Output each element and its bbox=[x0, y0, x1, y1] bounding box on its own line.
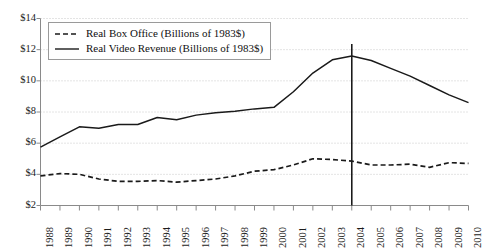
x-axis-tick-label: 2008 bbox=[434, 227, 445, 248]
x-axis-tick-label: 2007 bbox=[415, 227, 426, 248]
x-axis-tick-label: 2004 bbox=[356, 227, 367, 248]
x-axis-tick-label: 1994 bbox=[162, 227, 173, 248]
x-axis-tick-label: 2002 bbox=[317, 227, 328, 248]
x-axis-tick-label: 1991 bbox=[103, 227, 114, 248]
x-axis-tick-label: 2005 bbox=[376, 227, 387, 248]
x-axis-tick-label: 2010 bbox=[473, 227, 484, 248]
legend: Real Box Office (Billions of 1983$) Real… bbox=[48, 22, 271, 60]
legend-label-video-revenue: Real Video Revenue (Billions of 1983$) bbox=[86, 42, 263, 55]
dashed-line-icon bbox=[54, 28, 80, 40]
chart-container: $2$4$6$8$10$12$14 1988198919901991199219… bbox=[0, 0, 485, 252]
x-axis-tick-label: 1988 bbox=[45, 227, 56, 248]
x-axis-tick-label: 1992 bbox=[123, 227, 134, 248]
x-axis-tick-label: 1999 bbox=[259, 227, 270, 248]
x-axis-tick-label: 2001 bbox=[298, 227, 309, 248]
x-axis-tick-label: 2000 bbox=[278, 227, 289, 248]
x-axis-tick-label: 1996 bbox=[201, 227, 212, 248]
solid-line-icon bbox=[54, 43, 80, 55]
x-axis-tick-label: 1989 bbox=[64, 227, 75, 248]
x-axis-tick-label: 2006 bbox=[395, 227, 406, 248]
x-axis-tick-label: 2009 bbox=[454, 227, 465, 248]
legend-item-video-revenue: Real Video Revenue (Billions of 1983$) bbox=[54, 41, 263, 56]
x-axis-tick-label: 1995 bbox=[181, 227, 192, 248]
legend-item-box-office: Real Box Office (Billions of 1983$) bbox=[54, 26, 263, 41]
x-axis-tick-label: 1997 bbox=[220, 227, 231, 248]
x-axis-tick-label: 2003 bbox=[337, 227, 348, 248]
legend-label-box-office: Real Box Office (Billions of 1983$) bbox=[86, 27, 245, 40]
x-axis-tick-label: 1990 bbox=[84, 227, 95, 248]
x-axis-tick-label: 1998 bbox=[240, 227, 251, 248]
x-axis-tick-label: 1993 bbox=[142, 227, 153, 248]
